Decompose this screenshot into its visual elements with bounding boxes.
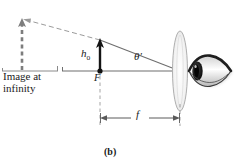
image-at-infinity-label: Image at infinity xyxy=(3,71,41,94)
converging-lens-icon xyxy=(173,31,188,111)
focal-length-label: f xyxy=(136,108,139,120)
virtual-image-arrow-icon xyxy=(18,18,26,70)
optics-figure: Image at infinity ho F θ′ f (b) xyxy=(0,0,236,168)
part-label: (b) xyxy=(104,146,116,157)
focal-point-label: F xyxy=(94,72,100,83)
object-arrow-icon xyxy=(96,38,104,74)
eye-icon xyxy=(189,56,231,87)
object-height-label: ho xyxy=(81,47,90,62)
angle-theta-prime-label: θ′ xyxy=(134,50,142,62)
focal-length-dimension xyxy=(100,113,180,123)
virtual-ray-dashed xyxy=(23,19,100,40)
